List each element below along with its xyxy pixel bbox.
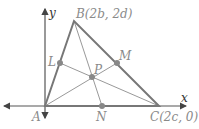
label-A: A xyxy=(31,110,41,124)
label-N: N xyxy=(95,110,107,124)
median-A-M xyxy=(45,63,117,106)
x-axis-label: x xyxy=(181,91,188,105)
y-axis-label: y xyxy=(48,6,56,20)
median-C-L xyxy=(60,63,159,106)
label-C: C(2c, 0) xyxy=(150,110,198,124)
label-L: L xyxy=(47,55,56,69)
triangle-diagram: y x B(2b, 2d) L M P A N C(2c, 0) xyxy=(0,0,199,129)
point-N xyxy=(99,103,105,109)
point-L xyxy=(57,60,63,66)
label-P: P xyxy=(93,63,103,77)
label-M: M xyxy=(118,49,132,63)
label-B: B(2b, 2d) xyxy=(75,7,133,21)
